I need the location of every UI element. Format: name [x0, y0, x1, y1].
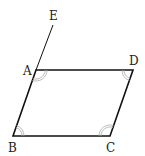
label-b: B [8, 141, 17, 155]
angle-mark-d [122, 70, 130, 80]
parallelogram-abcd [13, 70, 133, 136]
angle-mark-b [16, 126, 24, 136]
parallelogram-figure: E A D B C [0, 0, 145, 156]
label-c: C [106, 141, 115, 155]
label-e: E [49, 9, 58, 23]
diagram-canvas: E A D B C [0, 0, 145, 156]
label-d: D [129, 54, 139, 68]
ray-ae [36, 25, 53, 70]
label-a: A [22, 64, 32, 78]
